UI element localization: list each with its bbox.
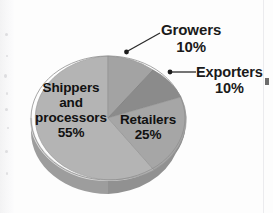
scanned-page: Growers 10% Exporters 10% Shippers and p… (0, 0, 273, 213)
slice-label-retailers: Retailers 25% (112, 112, 184, 142)
slice-label-retailers-name: Retailers (112, 112, 184, 127)
slice-label-growers-name: Growers (161, 21, 221, 38)
slice-label-exporters-name: Exporters (196, 64, 263, 80)
slice-label-exporters: Exporters 10% (196, 64, 263, 96)
slice-label-shippers-and-processors: Shippers and processors 55% (28, 80, 114, 140)
slice-label-shippers-line2: and (28, 95, 114, 110)
pie-chart: Growers 10% Exporters 10% Shippers and p… (0, 0, 273, 213)
leader-dot-exporters (168, 70, 173, 75)
slice-label-shippers-line3: processors (28, 110, 114, 125)
slice-label-shippers-line1: Shippers (28, 80, 114, 95)
slice-label-shippers-value: 55% (28, 125, 114, 140)
slice-label-growers-value: 10% (161, 39, 221, 56)
leader-line-growers (126, 33, 160, 52)
leader-dot-growers (124, 50, 129, 55)
slice-label-retailers-value: 25% (112, 127, 184, 142)
slice-label-growers: Growers 10% (161, 22, 221, 56)
slice-label-exporters-value: 10% (196, 80, 263, 96)
